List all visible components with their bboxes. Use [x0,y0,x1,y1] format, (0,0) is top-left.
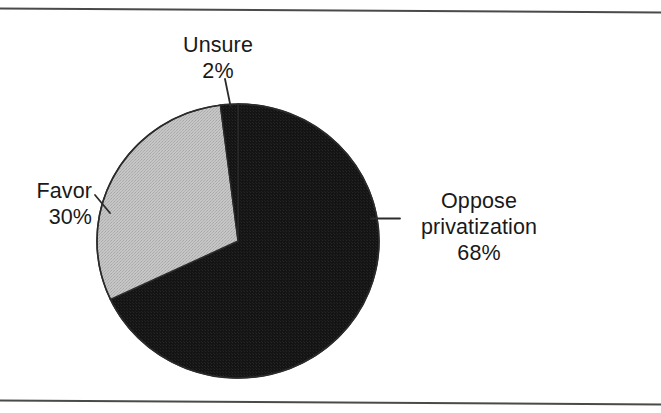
top-frame-rule [0,9,661,13]
slice-label-oppose-name2: privatization [396,214,562,240]
slice-label-favor-percent: 30% [0,204,92,230]
slice-label-favor: Favor 30% [0,178,92,230]
slice-label-unsure: Unsure 2% [128,32,308,84]
slice-label-oppose: Oppose privatization 68% [396,188,562,267]
slice-label-favor-name: Favor [0,178,92,204]
bottom-frame-rule [0,401,661,405]
chart-figure: Unsure 2% Favor 30% Oppose privatization… [0,0,661,413]
slice-label-unsure-name: Unsure [128,32,308,58]
slice-label-oppose-name: Oppose [396,188,562,214]
slice-label-unsure-percent: 2% [128,58,308,84]
slice-label-oppose-percent: 68% [396,240,562,266]
